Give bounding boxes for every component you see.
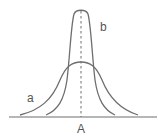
- label-curve-a: a: [27, 91, 34, 105]
- label-center-a: A: [77, 122, 85, 136]
- curve-a: [20, 62, 138, 115]
- label-curve-b: b: [100, 20, 107, 34]
- distribution-diagram: b a A: [0, 0, 158, 140]
